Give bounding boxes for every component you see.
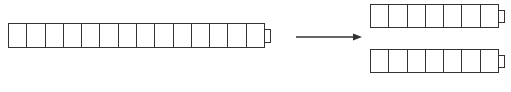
arrow-right-icon [0,0,511,92]
